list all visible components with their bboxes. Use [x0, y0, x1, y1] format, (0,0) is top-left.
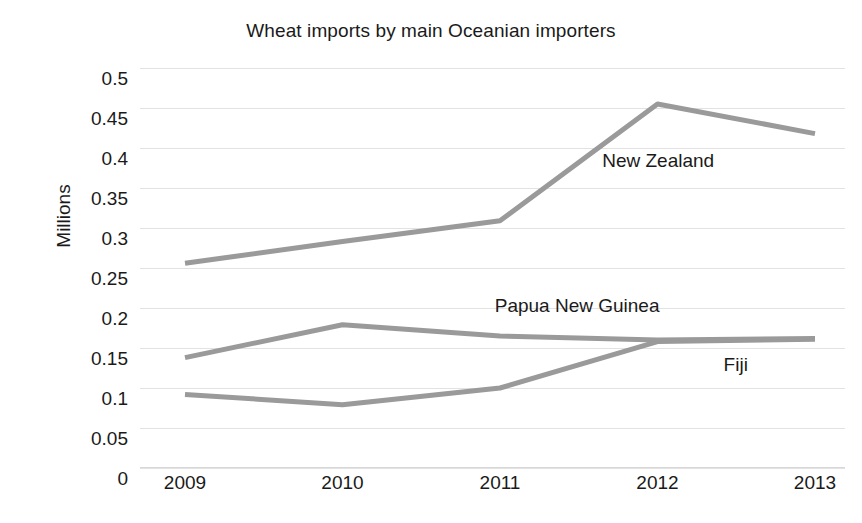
series-line — [185, 339, 815, 405]
series-label: Papua New Guinea — [495, 295, 660, 317]
x-tick-label: 2010 — [321, 472, 363, 494]
series-line — [185, 104, 815, 263]
x-tick-label: 2013 — [794, 472, 836, 494]
chart-root: Wheat imports by main Oceanian importers… — [0, 0, 862, 523]
plot-area: 00.050.10.150.20.250.30.350.40.450.5 200… — [140, 68, 845, 468]
gridline — [140, 468, 845, 469]
series-label: Fiji — [724, 354, 748, 376]
series-lines — [140, 68, 845, 468]
y-axis-label: Millions — [53, 146, 75, 286]
chart-title: Wheat imports by main Oceanian importers — [0, 20, 862, 42]
x-tick-label: 2009 — [164, 472, 206, 494]
series-label: New Zealand — [602, 150, 714, 172]
x-tick-label: 2011 — [480, 472, 521, 494]
x-tick-label: 2012 — [636, 472, 678, 494]
